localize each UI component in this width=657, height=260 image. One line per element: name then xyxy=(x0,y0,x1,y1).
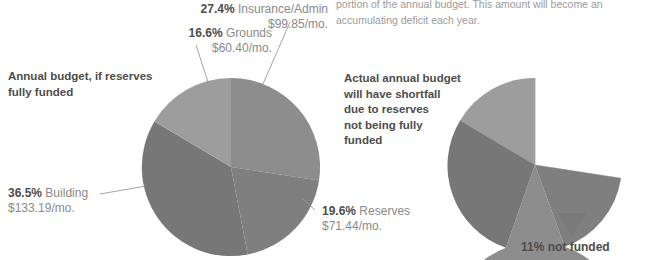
right-caption-line-5: funded xyxy=(344,133,461,149)
shortfall-label: 11% not funded xyxy=(521,239,610,255)
callout-building: 36.5% Building $133.19/mo. xyxy=(8,186,88,216)
callout-reserves-amount: $71.44/mo. xyxy=(322,219,410,234)
callout-reserves-name: Reserves xyxy=(356,204,410,218)
wedge-insurance-admin xyxy=(231,78,320,181)
callout-insurance-name: Insurance/Admin xyxy=(235,2,328,16)
callout-reserves-pct: 19.6% xyxy=(322,204,356,218)
callout-building-pct: 36.5% xyxy=(8,186,42,200)
callout-grounds-amount: $60.40/mo. xyxy=(138,41,272,56)
callout-building-amount: $133.19/mo. xyxy=(8,201,88,216)
right-caption-line-3: due to reserves xyxy=(344,102,461,118)
left-chart-caption: Annual budget, if reserves fully funded xyxy=(8,69,152,100)
left-pie-wedges xyxy=(142,78,320,256)
right-pie-wedges xyxy=(447,78,623,260)
right-chart-caption: Actual annual budget will have shortfall… xyxy=(344,71,461,149)
figure-canvas: portion of the annual budget. This amoun… xyxy=(0,0,657,260)
callout-insurance-admin: 27.4% Insurance/Admin $99.85/mo. xyxy=(146,2,328,32)
leader-line-building xyxy=(100,186,146,194)
right-caption-line-4: not being fully xyxy=(344,118,461,134)
right-caption-line-2: will have shortfall xyxy=(344,87,461,103)
callout-insurance-amount: $99.85/mo. xyxy=(146,17,328,32)
left-caption-line-2: fully funded xyxy=(8,85,152,101)
right-caption-line-1: Actual annual budget xyxy=(344,71,461,87)
callout-building-name: Building xyxy=(42,186,88,200)
left-caption-line-1: Annual budget, if reserves xyxy=(8,69,152,85)
callout-reserves: 19.6% Reserves $71.44/mo. xyxy=(322,204,410,234)
callout-insurance-pct: 27.4% xyxy=(201,2,235,16)
